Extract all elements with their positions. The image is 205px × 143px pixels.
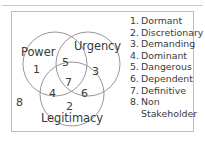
- venn-diagram: Power Urgency Legitimacy 1 2 3 4 5 6 7 8: [12, 12, 130, 133]
- legend-item-number: 1.: [130, 15, 141, 27]
- circle-label-legitimacy: Legitimacy: [41, 113, 103, 125]
- circle-label-power: Power: [21, 47, 55, 59]
- legend-item: 5. Dangerous: [130, 61, 195, 73]
- legend-item-continuation: Stakeholder: [130, 108, 195, 120]
- region-number-all-three: 7: [65, 77, 72, 88]
- legend-item: 3. Demanding: [130, 38, 195, 50]
- legend-item-label: Discretionary: [141, 27, 203, 39]
- region-number-outside-all: 8: [16, 97, 23, 108]
- legend-item-number: 7.: [130, 85, 141, 97]
- legend-item-label: Non: [141, 96, 160, 108]
- legend-item-number: 5.: [130, 61, 141, 73]
- region-number-power-legitimacy: 4: [49, 88, 56, 99]
- region-number-power-only: 1: [33, 64, 40, 75]
- legend-item: 1. Dormant: [130, 15, 195, 27]
- region-number-legitimacy-only: 2: [66, 101, 73, 112]
- region-number-power-urgency: 5: [62, 57, 69, 68]
- figure-page: Power Urgency Legitimacy 1 2 3 4 5 6 7 8…: [0, 0, 205, 143]
- legend-item-label: Dangerous: [141, 61, 192, 73]
- legend-item: 8. Non: [130, 96, 195, 108]
- legend-list: 1. Dormant 2. Discretionary 3. Demanding…: [130, 15, 195, 133]
- legend-item: 7. Definitive: [130, 85, 195, 97]
- region-number-urgency-legitimacy: 6: [81, 88, 88, 99]
- legend-item-label: Definitive: [141, 85, 186, 97]
- legend-item-label: Dependent: [141, 73, 193, 85]
- legend-item-label: Dominant: [141, 50, 187, 62]
- region-number-urgency-only: 3: [92, 66, 99, 77]
- legend-item-number: 8.: [130, 96, 141, 108]
- legend-item: 2. Discretionary: [130, 27, 195, 39]
- page-top-rule: [2, 5, 203, 6]
- legend-item-number: 6.: [130, 73, 141, 85]
- legend-item: 6. Dependent: [130, 73, 195, 85]
- legend-item: 4. Dominant: [130, 50, 195, 62]
- legend-item-label: Demanding: [141, 38, 195, 50]
- legend-item-number: 2.: [130, 27, 141, 39]
- legend-item-number: 4.: [130, 50, 141, 62]
- circle-label-urgency: Urgency: [74, 41, 121, 53]
- legend-item-label: Dormant: [141, 15, 182, 27]
- legend-item-number: 3.: [130, 38, 141, 50]
- figure-frame: Power Urgency Legitimacy 1 2 3 4 5 6 7 8…: [11, 11, 194, 132]
